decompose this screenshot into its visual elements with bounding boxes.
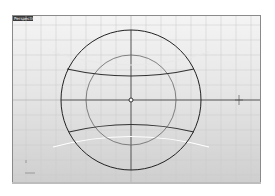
lower-band-curve [69,125,194,133]
viewport-canvas[interactable] [13,16,261,183]
origin-marker [129,98,133,102]
viewport-bottom-edge [12,182,261,184]
world-axes-icon [25,160,35,173]
perspective-viewport[interactable]: Perspective [12,15,261,183]
construction-grid [13,16,261,183]
